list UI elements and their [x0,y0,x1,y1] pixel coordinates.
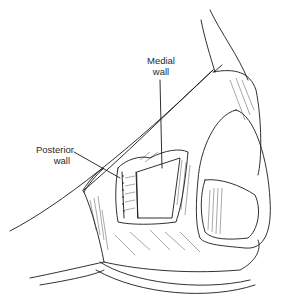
left-flap [83,168,104,192]
posterior-wall-label-line2: wall [22,155,74,166]
medial-wall-label-line1: Medial [136,55,186,66]
posterior-wall-label-line1: Posterior [22,144,74,155]
outer-contour [213,71,261,175]
right-cavity [201,180,258,239]
central-window-inner [137,158,180,218]
medial-wall-label-line2: wall [136,66,186,77]
medial-leader [160,80,162,168]
medial-wall-label: Medial wall [136,55,186,77]
posterior-wall-label: Posterior wall [22,144,74,166]
right-lobe [196,110,270,248]
